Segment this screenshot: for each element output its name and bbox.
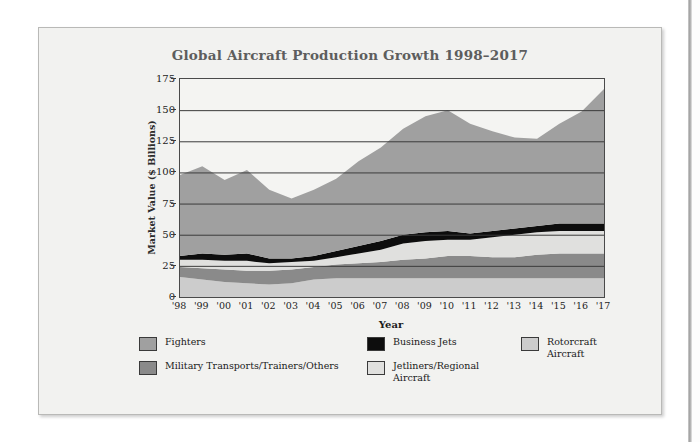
y-tick-mark: [171, 296, 176, 297]
x-tick-label: '99: [194, 300, 209, 311]
x-tick-label: '12: [484, 300, 499, 311]
x-tick-label: '15: [551, 300, 566, 311]
legend-item[interactable]: Rotorcraft Aircraft: [521, 336, 597, 360]
figure-card: Global Aircraft Production Growth 1998–2…: [38, 27, 662, 415]
x-tick-label: '02: [261, 300, 276, 311]
chart-legend: FightersMilitary Transports/Trainers/Oth…: [139, 336, 599, 398]
y-tick-mark: [171, 265, 176, 266]
x-tick-label: '03: [283, 300, 298, 311]
y-axis-label: Market Value ($ Billions): [146, 98, 157, 278]
legend-swatch: [139, 337, 157, 351]
legend-label: Rotorcraft Aircraft: [547, 336, 597, 360]
y-tick-mark: [171, 78, 176, 79]
legend-label: Jetliners/Regional Aircraft: [393, 360, 479, 384]
x-axis-label: Year: [179, 319, 603, 330]
x-tick-label: '17: [596, 300, 611, 311]
legend-swatch: [139, 361, 157, 375]
x-tick-label: '05: [328, 300, 343, 311]
x-tick-label: '16: [573, 300, 588, 311]
page-outer-margin: [692, 0, 700, 442]
legend-item[interactable]: Jetliners/Regional Aircraft: [367, 360, 479, 384]
chart-title: Global Aircraft Production Growth 1998–2…: [39, 47, 661, 63]
x-tick-label: '06: [350, 300, 365, 311]
x-tick-label: '01: [239, 300, 254, 311]
plot-area: [179, 78, 605, 298]
y-tick-mark: [171, 140, 176, 141]
legend-label: Fighters: [165, 336, 206, 348]
figure-page: Global Aircraft Production Growth 1998–2…: [0, 0, 700, 442]
x-tick-label: '11: [462, 300, 477, 311]
legend-item[interactable]: Fighters: [139, 336, 206, 351]
x-tick-label: '09: [417, 300, 432, 311]
legend-swatch: [367, 337, 385, 351]
legend-item[interactable]: Military Transports/Trainers/Others: [139, 360, 339, 375]
legend-label: Military Transports/Trainers/Others: [165, 360, 339, 372]
legend-swatch: [367, 361, 385, 375]
x-tick-label: '10: [439, 300, 454, 311]
x-tick-label: '13: [506, 300, 521, 311]
legend-label: Business Jets: [393, 336, 457, 348]
y-tick-mark: [171, 109, 176, 110]
stacked-area-chart: [180, 79, 604, 297]
x-tick-label: '08: [395, 300, 410, 311]
legend-swatch: [521, 337, 539, 351]
x-tick-label: '00: [216, 300, 231, 311]
plot-area-wrapper: Market Value ($ Billions) 02550751001251…: [141, 78, 611, 326]
x-tick-label: '14: [529, 300, 544, 311]
legend-item[interactable]: Business Jets: [367, 336, 457, 351]
x-tick-label: '07: [372, 300, 387, 311]
y-tick-mark: [171, 203, 176, 204]
x-tick-label: '98: [172, 300, 187, 311]
y-tick-mark: [171, 171, 176, 172]
y-tick-mark: [171, 234, 176, 235]
x-tick-label: '04: [306, 300, 321, 311]
